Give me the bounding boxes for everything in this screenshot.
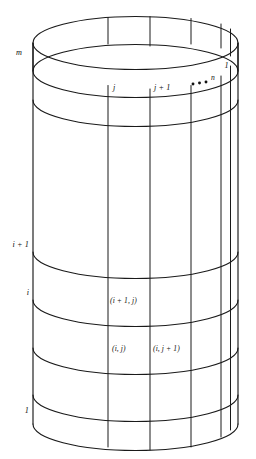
cylinder-lattice-figure: m i + 1 i 1 j j + 1 n 1 (i + 1, j) (i, j… [0,0,256,459]
label-cell-i-j: (i, j) [112,344,126,353]
diagram-canvas: m i + 1 i 1 j j + 1 n 1 (i + 1, j) (i, j… [0,0,256,459]
label-col-j: j [112,83,116,92]
cylinder-bottom-arc [33,424,238,451]
top-rim-outer-ellipse [33,17,238,70]
band-arc-row-i-plus-1 [33,252,238,279]
label-row-i-plus-1: i + 1 [13,240,30,249]
label-cell-i-j-plus-1: (i, j + 1) [153,344,180,353]
top-rim-inner-ellipse [33,45,238,98]
label-col-1: 1 [225,61,229,70]
label-row-1: 1 [25,406,29,415]
label-col-n: n [211,73,215,82]
label-cell-i-plus-1-j: (i + 1, j) [110,296,137,305]
band-arc-top [33,100,238,127]
label-col-j-plus-1: j + 1 [153,83,171,92]
label-row-m: m [16,48,22,57]
column-ellipsis [192,81,208,86]
band-arc-row-i-lower [33,348,238,375]
label-row-i: i [27,288,30,297]
band-arc-row-1 [33,395,238,422]
